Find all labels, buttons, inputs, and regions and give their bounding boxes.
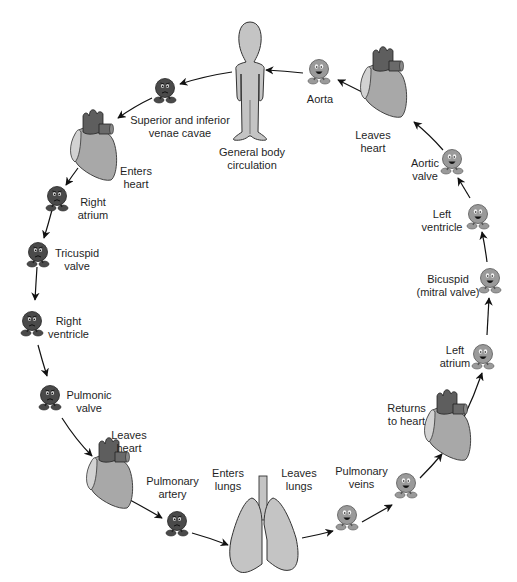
label-pulmonic-valve: Pulmonic valve bbox=[64, 389, 114, 415]
label-returns-to-heart: Returns to heart bbox=[384, 402, 429, 428]
label-pulmonary-veins: Pulmonary veins bbox=[334, 465, 389, 491]
label-leaves-lungs: Leaves lungs bbox=[279, 467, 319, 493]
label-venae-cavae: Superior and inferior venae cavae bbox=[130, 114, 230, 140]
human-body-icon bbox=[233, 22, 266, 140]
label-aortic-valve: Aortic valve bbox=[405, 157, 445, 183]
label-bicuspid: Bicuspid (mitral valve) bbox=[414, 273, 482, 299]
tricuspid-valve-cell-icon bbox=[27, 243, 49, 268]
label-aorta: Aorta bbox=[300, 93, 340, 106]
venae-cavae-cell-icon bbox=[154, 79, 176, 104]
label-right-ventricle: Right ventricle bbox=[46, 315, 91, 341]
right-atrium-cell-icon bbox=[46, 187, 68, 212]
returns-to-heart-icon bbox=[425, 390, 471, 461]
bicuspid-cell-icon bbox=[479, 269, 501, 294]
post-lung-cell-icon bbox=[336, 506, 358, 531]
pulmonary-artery-cell-icon bbox=[166, 512, 188, 537]
pulmonary-veins-cell-icon bbox=[395, 474, 417, 499]
label-leaves-heart-right: Leaves heart bbox=[109, 429, 149, 455]
circulation-diagram: General body circulation Superior and in… bbox=[0, 0, 517, 582]
label-enters-heart: Enters heart bbox=[116, 165, 156, 191]
aorta-cell-icon bbox=[308, 60, 330, 85]
right-ventricle-cell-icon bbox=[21, 312, 43, 337]
label-tricuspid-valve: Tricuspid valve bbox=[52, 247, 102, 273]
label-general-body: General body circulation bbox=[212, 146, 292, 172]
left-atrium-cell-icon bbox=[472, 345, 494, 370]
pulmonic-valve-cell-icon bbox=[39, 386, 61, 411]
label-leaves-heart-left: Leaves heart bbox=[353, 129, 393, 155]
label-pulmonary-artery: Pulmonary artery bbox=[145, 475, 200, 501]
label-enters-lungs: Enters lungs bbox=[208, 467, 248, 493]
left-ventricle-cell-icon bbox=[467, 205, 489, 230]
label-right-atrium: Right atrium bbox=[73, 196, 113, 222]
label-left-atrium: Left atrium bbox=[437, 344, 473, 370]
leaves-heart-left-icon bbox=[361, 47, 407, 118]
label-left-ventricle: Left ventricle bbox=[418, 208, 466, 234]
